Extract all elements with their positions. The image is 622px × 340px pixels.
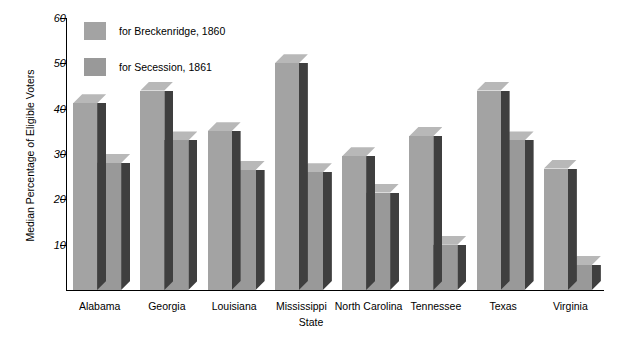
y-axis-tick: 30: [0, 149, 66, 159]
bar-top-face: [342, 147, 375, 156]
y-axis-tick: 10: [0, 240, 66, 250]
bar-front-face: [140, 91, 164, 290]
bar-side-face: [164, 91, 173, 290]
x-axis-tick-label: Virginia: [517, 300, 622, 312]
y-axis-tick: 20: [0, 194, 66, 204]
x-axis-line: [66, 290, 604, 291]
bar-side-face: [121, 163, 130, 290]
bar-chart: Median Percentage of Eligible Voters 102…: [0, 0, 622, 340]
bar-top-face: [477, 82, 510, 91]
bar: [140, 91, 164, 290]
bar-front-face: [409, 136, 433, 290]
legend-swatch: [84, 58, 106, 76]
bar-top-face: [409, 127, 442, 136]
plot-area: for Breckenridge, 1860for Secession, 186…: [66, 18, 604, 290]
bar: [342, 156, 366, 290]
bar-side-face: [232, 131, 241, 290]
bar-front-face: [544, 169, 568, 290]
legend-item: for Breckenridge, 1860: [84, 20, 225, 42]
chart-legend: for Breckenridge, 1860for Secession, 186…: [84, 20, 225, 92]
legend-swatch: [84, 22, 106, 40]
bar: [73, 103, 97, 290]
bar-side-face: [256, 170, 265, 290]
bar-side-face: [568, 169, 577, 290]
x-axis-title: State: [0, 316, 622, 328]
legend-label: for Secession, 1861: [119, 61, 212, 73]
bar: [275, 63, 299, 290]
bar-top-face: [544, 160, 577, 169]
bar-side-face: [323, 172, 332, 290]
bar-side-face: [390, 193, 399, 290]
bar-side-face: [366, 156, 375, 290]
legend-label: for Breckenridge, 1860: [119, 25, 225, 37]
bar: [544, 169, 568, 290]
bar-side-face: [188, 140, 197, 290]
bar: [409, 136, 433, 290]
bar-front-face: [73, 103, 97, 290]
bar-side-face: [501, 91, 510, 290]
legend-item: for Secession, 1861: [84, 56, 225, 78]
bar-front-face: [208, 131, 232, 290]
bar-side-face: [433, 136, 442, 290]
bar-side-face: [97, 103, 106, 290]
bar-side-face: [457, 245, 466, 290]
y-axis-tick: 60: [0, 13, 66, 23]
bar-front-face: [275, 63, 299, 290]
y-axis-tick: 50: [0, 58, 66, 68]
bar-side-face: [299, 63, 308, 290]
bar: [208, 131, 232, 290]
bar-top-face: [275, 54, 308, 63]
bar-side-face: [592, 265, 601, 290]
bar-front-face: [477, 91, 501, 290]
y-axis-tick: 40: [0, 104, 66, 114]
bar-side-face: [525, 140, 534, 290]
bar-top-face: [73, 94, 106, 103]
bar: [477, 91, 501, 290]
bar-front-face: [342, 156, 366, 290]
bar-top-face: [208, 122, 241, 131]
